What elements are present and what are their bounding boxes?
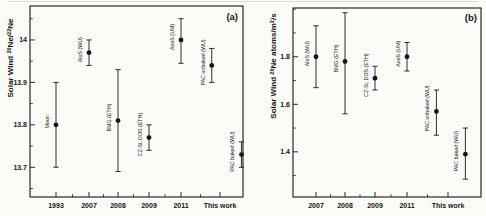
solar-wind-neon-chart: 13.713.813.91419932007200820092011This w…: [0, 0, 486, 216]
x-tick-label: This work: [432, 202, 465, 209]
y-tick-label: 13.7: [13, 164, 27, 171]
point-label-pac-unbaked-wu: PAC unbaked (WU): [424, 85, 430, 131]
y-tick-label: 1.4: [280, 148, 290, 155]
point-label-pac-unbaked-wu: PAC unbaked (WU): [200, 39, 206, 85]
point-label-moon: Moon: [44, 115, 50, 128]
point-label-cz-si-dos-eth: CZ-Si, DOS (ETH): [363, 53, 369, 97]
data-point-cz-si-dos-eth: [147, 135, 152, 140]
x-tick-label: This work: [204, 202, 237, 209]
point-label-bmg-eth: BMG (ETH): [106, 104, 112, 132]
point-label-auos-um: AuoS (UM): [169, 24, 175, 50]
x-tick-label: 2007: [81, 202, 97, 209]
y-axis-label: Solar Wind 20Ne atoms/m2/s: [269, 13, 278, 119]
data-point-moon: [54, 122, 59, 127]
data-point-pac-unbaked-wu: [434, 109, 439, 114]
panel-tag: (a): [226, 11, 238, 22]
data-point-alos-wu: [314, 54, 319, 59]
data-point-cz-si-dos-eth: [373, 76, 378, 81]
data-point-auos-um: [179, 38, 184, 43]
point-label-pac-baked-wu: PAC baked (WU): [229, 131, 235, 171]
data-point-pac-unbaked-wu: [209, 63, 214, 68]
y-tick-label: 13.8: [13, 121, 27, 128]
point-label-alos-wu: AloS (WU): [77, 37, 83, 62]
data-point-bmg-eth: [116, 118, 121, 123]
panel-tag: (b): [465, 12, 477, 23]
point-label-pac-baked-wu: PAC baked (WU): [453, 131, 459, 171]
x-tick-label: 2009: [367, 202, 383, 209]
x-tick-label: 2008: [337, 202, 353, 209]
y-tick-label: 1.6: [280, 101, 290, 108]
point-label-cz-si-dos-eth: CZ-Si, DOS (ETH): [137, 113, 143, 157]
figure-two-panel-errorbar-plot: 13.713.813.91419932007200820092011This w…: [0, 0, 486, 216]
y-tick-label: 1.8: [280, 53, 290, 60]
x-tick-label: 2007: [308, 202, 324, 209]
data-point-alos-wu: [87, 50, 92, 55]
x-tick-label: 1993: [48, 202, 64, 209]
data-point-auos-um: [405, 54, 410, 59]
point-label-auos-um: AuoS (UM): [395, 40, 401, 66]
plot-area-a: [30, 6, 243, 197]
x-tick-label: 2011: [399, 202, 414, 209]
x-tick-label: 2009: [141, 202, 157, 209]
y-tick-label: 13.9: [13, 79, 27, 86]
x-tick-label: 2008: [110, 202, 126, 209]
x-tick-label: 2011: [173, 202, 188, 209]
data-point-pac-baked-wu: [463, 152, 468, 157]
point-label-bmg-eth: BMG (ETH): [333, 44, 339, 72]
data-point-bmg-eth: [343, 59, 348, 64]
point-label-alos-wu: AloS (WU): [304, 41, 310, 66]
y-tick-label: 14: [19, 36, 27, 43]
y-axis-label: Solar Wind 20Ne/22Ne: [6, 18, 15, 98]
data-point-pac-baked-wu: [239, 152, 244, 157]
